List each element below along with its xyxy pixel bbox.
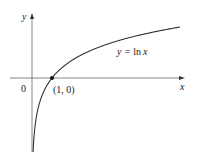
curve-label-var: x [142, 46, 148, 57]
x-axis-label: x [179, 81, 185, 92]
y-axis-label: y [21, 11, 27, 22]
y-axis-arrow-icon [30, 13, 34, 19]
point-1-0 [50, 76, 54, 80]
origin-label: 0 [21, 83, 26, 94]
curve-label: y = lnx [116, 46, 148, 57]
curve-label-prefix: y = [116, 46, 133, 57]
chart-canvas: y x 0 (1, 0) y = lnx [0, 0, 200, 162]
curve-label-fn: ln [133, 46, 141, 57]
x-axis-arrow-icon [179, 76, 185, 80]
point-label: (1, 0) [53, 84, 75, 96]
